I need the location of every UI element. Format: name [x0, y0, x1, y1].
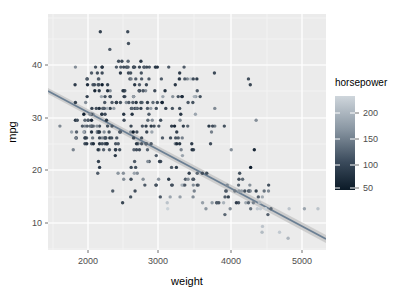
data-point [223, 213, 226, 216]
data-point [161, 95, 164, 98]
data-point [108, 148, 111, 151]
data-point [143, 183, 146, 186]
data-point [140, 77, 143, 80]
data-point [149, 124, 152, 127]
data-point [132, 65, 135, 68]
data-point [118, 148, 121, 151]
data-point [100, 113, 103, 116]
data-point [85, 124, 88, 127]
data-point [122, 172, 125, 175]
data-point [254, 189, 257, 192]
data-point [226, 183, 229, 186]
data-point [191, 101, 194, 104]
data-point [154, 65, 157, 68]
data-point [108, 107, 111, 110]
data-point [122, 113, 125, 116]
data-point [134, 107, 137, 110]
data-point [179, 148, 182, 151]
data-point [125, 65, 128, 68]
data-point [103, 107, 106, 110]
data-point [257, 195, 260, 198]
data-point [112, 107, 115, 110]
data-point [167, 65, 170, 68]
y-tick-label: 40 [32, 60, 42, 70]
data-point [140, 136, 143, 139]
data-point [146, 101, 149, 104]
data-point [132, 130, 135, 133]
data-point [186, 101, 189, 104]
data-point [138, 83, 141, 86]
data-point [127, 101, 130, 104]
data-point [103, 95, 106, 98]
data-point [133, 160, 136, 163]
data-point [192, 183, 195, 186]
data-point [178, 77, 181, 80]
data-point [141, 89, 144, 92]
data-point [278, 231, 281, 234]
data-point [114, 148, 117, 151]
data-point [193, 95, 196, 98]
data-point [98, 107, 101, 110]
data-point [190, 142, 193, 145]
data-point [106, 83, 109, 86]
data-point [143, 65, 146, 68]
data-point [249, 207, 252, 210]
data-point [173, 124, 176, 127]
data-point [117, 60, 120, 63]
data-point [103, 101, 106, 104]
data-point [120, 60, 123, 63]
data-point [174, 83, 177, 86]
data-point [140, 71, 143, 74]
data-point [73, 83, 76, 86]
data-point [175, 166, 178, 169]
data-point [191, 195, 194, 198]
data-point [121, 201, 124, 204]
data-point [169, 136, 172, 139]
data-point [93, 89, 96, 92]
data-point [159, 119, 162, 122]
data-point [127, 42, 130, 45]
data-point [98, 89, 101, 92]
data-point [88, 124, 91, 127]
data-point [267, 183, 270, 186]
y-tick-label: 30 [32, 113, 42, 123]
plot-panel [45, 14, 326, 253]
data-point [111, 189, 114, 192]
data-point [249, 166, 252, 169]
data-point [247, 201, 250, 204]
data-point [100, 95, 103, 98]
x-tick-label: 5000 [292, 256, 312, 266]
data-point [183, 77, 186, 80]
data-point [160, 77, 163, 80]
data-point [151, 119, 154, 122]
data-point [267, 189, 270, 192]
data-point [181, 136, 184, 139]
data-point [159, 195, 162, 198]
data-point [106, 124, 109, 127]
data-point [196, 172, 199, 175]
data-point [132, 95, 135, 98]
data-point [183, 183, 186, 186]
data-point [178, 142, 181, 145]
legend-tick-label: 200 [363, 108, 378, 118]
data-point [237, 189, 240, 192]
data-point [178, 71, 181, 74]
data-point [75, 130, 78, 133]
data-point [261, 225, 264, 228]
data-point [134, 166, 137, 169]
data-point [178, 107, 181, 110]
data-point [92, 142, 95, 145]
data-point [238, 172, 241, 175]
y-axis-title: mpg [6, 121, 18, 142]
data-point [110, 136, 113, 139]
data-point [223, 195, 226, 198]
data-point [135, 130, 138, 133]
data-point [102, 148, 105, 151]
data-point [108, 48, 111, 51]
data-point [139, 107, 142, 110]
data-point [192, 77, 195, 80]
data-point [253, 148, 256, 151]
y-tick-label: 20 [32, 165, 42, 175]
data-point [145, 83, 148, 86]
data-point [235, 201, 238, 204]
